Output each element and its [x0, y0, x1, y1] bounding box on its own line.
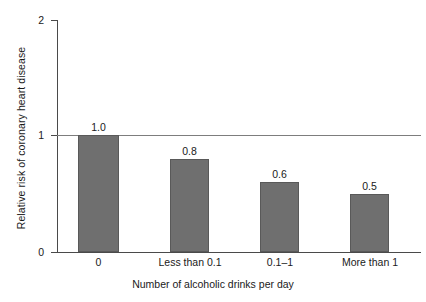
category-label-0: 0	[73, 257, 124, 268]
y-tick-label-0: 0	[16, 247, 44, 258]
y-tick-label-2: 2	[16, 15, 44, 26]
y-axis-line	[57, 20, 58, 253]
x-axis-line	[57, 252, 421, 253]
category-label-3: More than 1	[310, 257, 426, 268]
y-tick-mark-0	[51, 252, 57, 253]
bar-0[interactable]	[78, 135, 119, 252]
y-tick-label-1: 1	[16, 130, 44, 141]
y-tick-mark-1	[51, 135, 57, 136]
bar-value-1: 0.8	[164, 146, 215, 157]
x-axis-title: Number of alcoholic drinks per day	[0, 278, 426, 290]
bar-1[interactable]	[170, 159, 209, 252]
y-tick-mark-2	[51, 20, 57, 21]
bar-value-2: 0.6	[254, 169, 305, 180]
bar-value-3: 0.5	[344, 181, 395, 192]
bar-3[interactable]	[350, 194, 389, 252]
bar-value-0: 1.0	[73, 122, 124, 133]
bar-chart-figure: Relative risk of coronary heart disease …	[0, 0, 426, 302]
bar-2[interactable]	[260, 182, 299, 252]
